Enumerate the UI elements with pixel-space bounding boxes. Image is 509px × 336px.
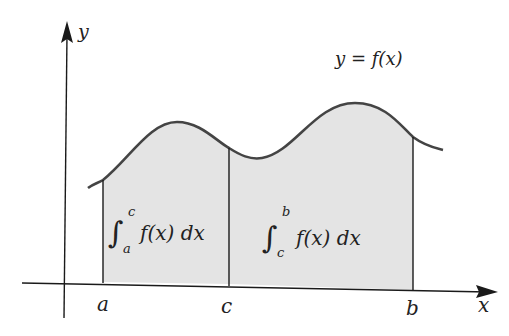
tick-label-b: b <box>406 296 419 320</box>
y-axis-label: y <box>77 20 89 42</box>
y-axis <box>64 34 67 318</box>
integral-left-upper: c <box>128 204 136 219</box>
integral-left-integrand: f(x) dx <box>138 221 205 245</box>
integral-additivity-diagram: y x a c b y = f(x) ∫ c a f(x) dx ∫ b c f… <box>0 0 509 336</box>
integral-right-lower: c <box>277 245 285 260</box>
curve-label: y = f(x) <box>334 48 403 69</box>
tick-label-c: c <box>221 294 232 318</box>
integral-right-integrand: f(x) dx <box>294 226 361 250</box>
integral-right-upper: b <box>282 204 290 219</box>
region-c-to-b <box>229 103 413 290</box>
integral-sign-icon: ∫ <box>108 215 124 250</box>
region-a-to-c <box>103 122 229 284</box>
tick-label-a: a <box>97 292 109 316</box>
integral-left-lower: a <box>123 241 131 256</box>
integral-sign-icon: ∫ <box>262 220 278 255</box>
x-axis-label: x <box>478 293 489 317</box>
